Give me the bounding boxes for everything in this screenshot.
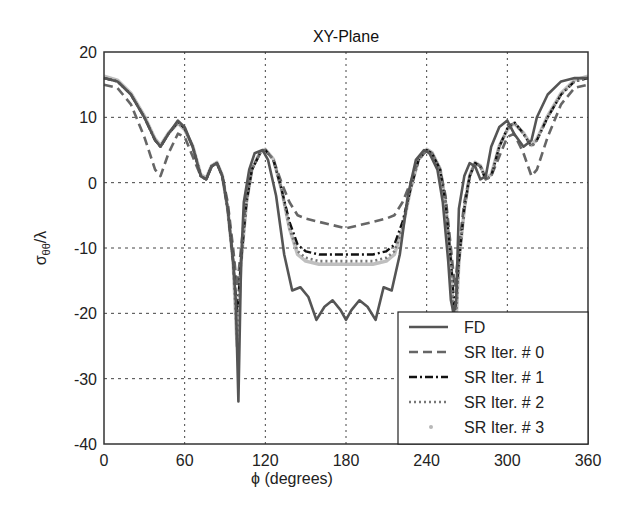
x-tick-label: 120 bbox=[252, 452, 279, 469]
x-tick-label: 60 bbox=[176, 452, 194, 469]
svg-text:σθθ/λ: σθθ/λ bbox=[32, 231, 52, 266]
x-tick-labels: 060120180240300360 bbox=[100, 452, 602, 469]
x-tick-label: 300 bbox=[494, 452, 521, 469]
x-axis-label: ϕ (degrees) bbox=[251, 470, 333, 487]
y-axis-label: σθθ/λ bbox=[32, 231, 52, 266]
x-tick-label: 360 bbox=[575, 452, 602, 469]
legend-item-label: SR Iter. # 1 bbox=[464, 369, 544, 386]
y-label-subscript: θθ bbox=[40, 243, 52, 255]
y-tick-labels: 20100-10-20-30-40 bbox=[74, 44, 97, 453]
legend-item-label: SR Iter. # 0 bbox=[464, 344, 544, 361]
x-tick-label: 0 bbox=[100, 452, 109, 469]
legend-item-label: FD bbox=[464, 319, 485, 336]
y-tick-label: -40 bbox=[74, 436, 97, 453]
y-tick-label: 20 bbox=[79, 44, 97, 61]
x-tick-label: 240 bbox=[413, 452, 440, 469]
y-tick-label: -20 bbox=[74, 305, 97, 322]
x-tick-label: 180 bbox=[333, 452, 360, 469]
y-tick-label: -30 bbox=[74, 371, 97, 388]
legend-item-label: SR Iter. # 2 bbox=[464, 394, 544, 411]
y-tick-label: 0 bbox=[88, 175, 97, 192]
chart-title: XY-Plane bbox=[313, 28, 379, 45]
y-tick-label: -10 bbox=[74, 240, 97, 257]
y-tick-label: 10 bbox=[79, 109, 97, 126]
legend-marker bbox=[429, 425, 433, 429]
y-label-sigma: σ bbox=[32, 255, 49, 265]
legend: FDSR Iter. # 0SR Iter. # 1SR Iter. # 2SR… bbox=[398, 312, 588, 444]
y-label-lambda: /λ bbox=[32, 231, 49, 243]
legend-item-label: SR Iter. # 3 bbox=[464, 419, 544, 436]
chart: XY-Plane 060120180240300360 20100-10-20-… bbox=[0, 0, 642, 516]
